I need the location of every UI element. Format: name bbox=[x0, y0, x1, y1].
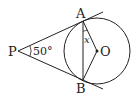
label-b: B bbox=[76, 81, 86, 96]
angle-p-label: 50° bbox=[33, 45, 53, 58]
label-a: A bbox=[75, 6, 86, 21]
label-p: P bbox=[8, 44, 17, 59]
tangent-pb bbox=[18, 51, 103, 89]
radius-ob bbox=[83, 51, 97, 80]
label-o: O bbox=[100, 44, 111, 59]
center-dot bbox=[96, 50, 99, 53]
angle-x-label: x bbox=[84, 34, 90, 45]
angle-x-arc bbox=[83, 30, 88, 31]
diagram-canvas: P A B O 50° x bbox=[0, 0, 137, 97]
angle-p-arc bbox=[30, 46, 31, 56]
tangent-pa bbox=[18, 12, 103, 51]
geometry-diagram: P A B O 50° x bbox=[0, 0, 137, 97]
